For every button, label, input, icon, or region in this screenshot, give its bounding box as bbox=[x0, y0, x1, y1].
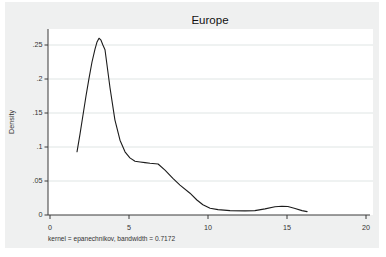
y-tick-label: .1 bbox=[37, 142, 43, 151]
x-tick-label: 0 bbox=[48, 223, 52, 232]
y-tick-label: .15 bbox=[33, 108, 43, 117]
kernel-density-chart: 0.05.1.15.2.2505101520 Europe Density ke… bbox=[0, 0, 386, 257]
x-tick-label: 5 bbox=[127, 223, 131, 232]
chart-footnote: kernel = epanechnikov, bandwidth = 0.717… bbox=[48, 235, 175, 243]
y-axis-title: Density bbox=[7, 110, 16, 134]
plot-area bbox=[48, 29, 373, 215]
y-tick-label: .2 bbox=[37, 74, 43, 83]
chart-title: Europe bbox=[191, 14, 228, 26]
x-tick-label: 10 bbox=[204, 223, 212, 232]
y-tick-label: 0 bbox=[39, 210, 43, 219]
y-tick-label: .25 bbox=[33, 40, 43, 49]
x-tick-label: 15 bbox=[283, 223, 291, 232]
x-tick-label: 20 bbox=[362, 223, 370, 232]
y-tick-label: .05 bbox=[33, 176, 43, 185]
chart-svg: 0.05.1.15.2.2505101520 Europe Density ke… bbox=[0, 0, 386, 257]
